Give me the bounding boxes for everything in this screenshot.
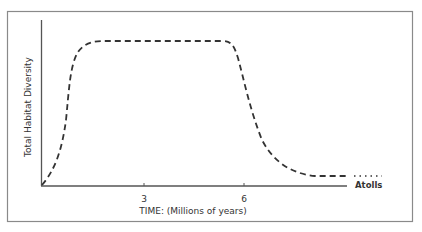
atolls-label: Atolls bbox=[355, 180, 382, 190]
x-axis-label: TIME: (Millions of years) bbox=[138, 206, 246, 216]
x-tick-label-3: 3 bbox=[141, 194, 147, 204]
chart-frame bbox=[8, 12, 413, 222]
y-axis-label: Total Habitat Diversity bbox=[23, 56, 33, 158]
habitat-diversity-chart: 3 6 TIME: (Millions of years) Total Habi… bbox=[0, 0, 422, 232]
x-tick-label-6: 6 bbox=[241, 194, 247, 204]
